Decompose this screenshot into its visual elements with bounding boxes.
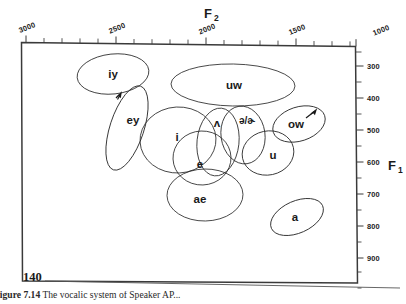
x-axis-title-base: F (204, 6, 212, 21)
vowel-label-uw: uw (226, 79, 242, 91)
vowel-label-e: e (197, 158, 203, 170)
vowel-ellipse-u: u (238, 126, 298, 180)
caption-text: The vocalic system of Speaker AP... (42, 291, 180, 300)
y-axis-title-base: F (388, 158, 396, 173)
x-tick-label-1500: 1500 (287, 22, 306, 37)
vowel-label-schwa: ə/ɚ (239, 115, 255, 126)
figure-caption: Figure 7.14 The vocalic system of Speake… (0, 291, 406, 304)
y-tick-label-600: 600 (367, 158, 380, 167)
y-axis-tick-labels: 300 400 500 600 700 800 900 (367, 62, 380, 263)
y-tick-label-300: 300 (367, 62, 380, 71)
vowel-formant-chart: 3000 2500 2000 1500 1000 F 2 (0, 0, 406, 304)
vowel-label-iy: iy (108, 68, 118, 80)
vowel-ellipse-schwa: ə/ɚ (217, 103, 269, 167)
figure-container: 3000 2500 2000 1500 1000 F 2 (0, 0, 406, 304)
x-axis-title: F 2 (204, 6, 219, 23)
x-tick-label-1000: 1000 (371, 23, 390, 38)
x-axis-tick-labels: 3000 2500 2000 1500 1000 (17, 20, 390, 38)
y-tick-label-500: 500 (367, 126, 380, 135)
y-tick-label-800: 800 (367, 222, 380, 231)
vowel-ellipse-group: iy ey i uw ʌ (75, 50, 330, 243)
vowel-ellipse-ow: ow (268, 99, 330, 148)
vowel-ellipse-uw: uw (171, 63, 296, 107)
y-axis-title: F 1 (388, 158, 403, 175)
vowel-label-wedge: ʌ (214, 117, 221, 129)
vowel-label-ow: ow (288, 118, 304, 130)
y-tick-label-400: 400 (367, 94, 380, 103)
x-axis-title-subscript: 2 (214, 13, 219, 23)
page-number: 140 (23, 270, 42, 284)
caption-prefix: Figure 7.14 (0, 291, 40, 300)
x-tick-label-2500: 2500 (107, 21, 126, 36)
vowel-label-i: i (175, 131, 178, 143)
vowel-ellipse-e: e (172, 130, 232, 186)
vowel-label-ae: ae (194, 193, 207, 205)
vowel-ellipse-a: a (265, 191, 329, 243)
y-axis-title-subscript: 1 (398, 165, 403, 175)
x-tick-label-2000: 2000 (197, 21, 216, 36)
vowel-label-u: u (269, 149, 276, 161)
y-tick-label-700: 700 (367, 190, 380, 199)
x-tick-label-3000: 3000 (17, 20, 36, 35)
vowel-ellipse-ae: ae (167, 168, 244, 221)
vowel-ellipse-iy: iy (75, 50, 151, 97)
vowel-label-ey: ey (127, 114, 140, 126)
vowel-ellipse-i: i (138, 105, 217, 175)
vowel-label-a: a (292, 211, 299, 223)
plot-frame (22, 43, 358, 284)
y-tick-label-900: 900 (367, 254, 380, 263)
